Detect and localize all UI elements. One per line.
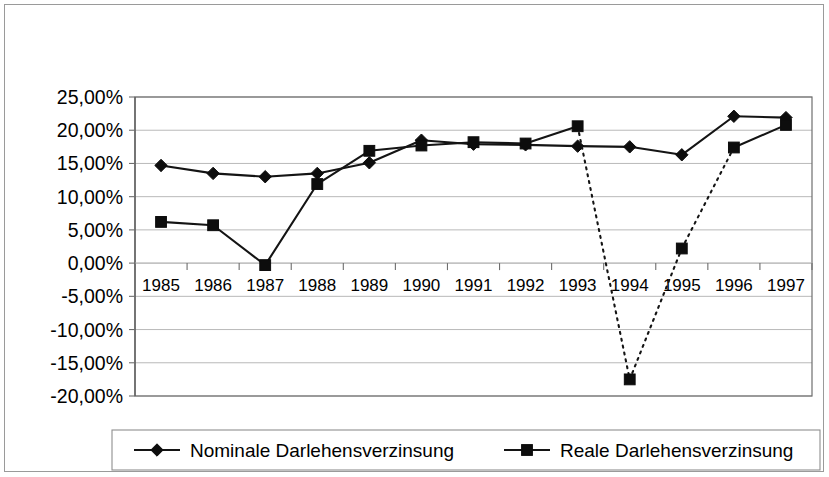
legend-item-label[interactable]: Nominale Darlehensverzinsung [190, 440, 454, 461]
series-1-segment [734, 125, 786, 148]
data-point-marker[interactable] [624, 141, 636, 153]
data-point-marker[interactable] [676, 243, 687, 254]
series-0-segment [682, 116, 734, 155]
series-1-segment [682, 147, 734, 248]
series-1-segment [578, 126, 630, 379]
series-1-segment [369, 146, 421, 151]
y-axis-tick-label: 15,00% [57, 152, 123, 174]
series-1-segment [526, 126, 578, 143]
data-point-marker[interactable] [312, 179, 323, 190]
x-axis-tick-label: 1997 [767, 276, 805, 295]
legend-item-label[interactable]: Reale Darlehensverzinsung [560, 440, 793, 461]
series-0-segment [369, 140, 421, 163]
series-0-segment [734, 116, 786, 117]
series-1-segment [474, 142, 526, 143]
x-axis-tick-label: 1992 [507, 276, 545, 295]
chart-figure: 25,00%20,00%15,00%10,00%5,00%0,00%-5,00%… [0, 0, 829, 477]
data-point-marker[interactable] [155, 159, 167, 171]
x-axis-tick-label: 1996 [715, 276, 753, 295]
data-point-marker[interactable] [364, 145, 375, 156]
data-point-marker[interactable] [520, 138, 531, 149]
series-0-segment [161, 165, 213, 173]
data-point-marker[interactable] [781, 120, 792, 131]
y-axis-tick-label: -15,00% [50, 352, 123, 374]
legend-marker-square [522, 445, 533, 456]
data-point-marker[interactable] [156, 217, 167, 228]
data-point-marker[interactable] [624, 374, 635, 385]
series-0-segment [265, 173, 317, 176]
data-point-marker[interactable] [311, 167, 323, 179]
data-point-marker[interactable] [259, 171, 271, 183]
data-point-marker[interactable] [207, 167, 219, 179]
x-axis-tick-label: 1990 [403, 276, 441, 295]
x-axis-tick-label: 1985 [142, 276, 180, 295]
data-point-marker[interactable] [208, 220, 219, 231]
x-axis-tick-label: 1989 [350, 276, 388, 295]
x-axis-tick-label: 1994 [611, 276, 649, 295]
series-0-segment [630, 147, 682, 155]
x-axis-tick-label: 1987 [246, 276, 284, 295]
series-1-segment [213, 225, 265, 265]
data-point-marker[interactable] [363, 157, 375, 169]
y-axis-tick-label: 10,00% [57, 186, 123, 208]
series-0-segment [526, 145, 578, 146]
x-axis-tick-label: 1991 [455, 276, 493, 295]
data-point-marker[interactable] [416, 140, 427, 151]
x-axis-tick-label: 1993 [559, 276, 597, 295]
y-axis-tick-label: 20,00% [57, 119, 123, 141]
data-point-marker[interactable] [728, 142, 739, 153]
data-point-marker[interactable] [260, 260, 271, 271]
y-axis-tick-label: 0,00% [68, 252, 123, 274]
y-axis-tick-label: -20,00% [50, 385, 123, 407]
y-axis-tick-label: 5,00% [68, 219, 123, 241]
y-axis-tick-label: -5,00% [61, 285, 123, 307]
data-point-marker[interactable] [572, 121, 583, 132]
x-axis-tick-label: 1995 [663, 276, 701, 295]
x-axis-tick-label: 1986 [194, 276, 232, 295]
series-0-segment [213, 173, 265, 176]
y-axis-tick-label: -10,00% [50, 319, 123, 341]
series-0-segment [578, 146, 630, 147]
y-axis-tick-label: 25,00% [57, 86, 123, 108]
line-chart: 25,00%20,00%15,00%10,00%5,00%0,00%-5,00%… [0, 0, 829, 477]
series-1-segment [161, 222, 213, 225]
series-1-segment [317, 151, 369, 184]
x-axis-tick-label: 1988 [298, 276, 336, 295]
data-point-marker[interactable] [468, 137, 479, 148]
